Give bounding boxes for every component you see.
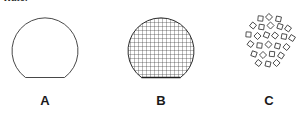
- scattered-squares-cluster-icon: [238, 10, 300, 90]
- panel-c-label: C: [238, 93, 300, 108]
- truncated-disc-outline-icon: [6, 10, 84, 90]
- panel-c: C: [238, 10, 300, 120]
- panel-a-label: A: [6, 93, 84, 108]
- truncated-disc-grid-icon: [122, 10, 200, 90]
- caption-fragment: Water: [3, 0, 29, 3]
- panel-b-label: B: [122, 93, 200, 108]
- figure-panel: Water A: [0, 0, 301, 133]
- panel-b: B: [122, 10, 200, 120]
- panel-a: A: [6, 10, 84, 120]
